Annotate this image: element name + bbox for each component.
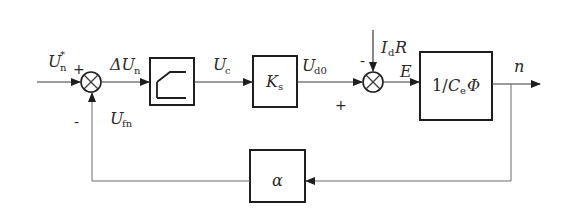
feedback-label: U fn <box>110 109 133 129</box>
sum1-plus-sign: + <box>73 61 85 77</box>
svg-text:s: s <box>278 81 283 92</box>
svg-text:d0: d0 <box>314 65 327 76</box>
svg-text:ΔU: ΔU <box>109 55 136 74</box>
svg-text:fn: fn <box>122 118 133 129</box>
block-diagram: U n * + ΔU n U c K s U d0 + I d <box>0 0 575 217</box>
summing-junction-2 <box>363 72 383 92</box>
feedback-path-left <box>92 93 250 181</box>
converter-block: K s <box>253 56 297 107</box>
saturation-block <box>150 58 194 105</box>
svg-text:c: c <box>225 65 231 76</box>
reference-label: U n * <box>48 49 67 73</box>
svg-text:d: d <box>388 47 395 58</box>
emf-label: E <box>399 62 412 81</box>
svg-text:Φ: Φ <box>467 76 480 95</box>
feedback-gain-block: α <box>250 150 305 202</box>
sum1-minus-sign: - <box>74 114 79 130</box>
svg-text:1/: 1/ <box>432 76 448 95</box>
sum2-plus-sign: + <box>335 97 347 113</box>
control-label: U c <box>213 55 231 76</box>
svg-text:α: α <box>272 171 283 190</box>
error-label: ΔU n <box>109 55 141 76</box>
disturbance-label: I d R <box>380 38 407 58</box>
converter-output-label: U d0 <box>302 56 327 76</box>
svg-text:C: C <box>448 76 460 95</box>
svg-text:n: n <box>134 65 141 76</box>
svg-text:e: e <box>460 85 466 96</box>
svg-text:n: n <box>60 62 67 73</box>
summing-junction-1 <box>81 72 101 92</box>
svg-text:R: R <box>394 38 407 57</box>
svg-text:K: K <box>265 72 279 91</box>
output-label: n <box>514 57 524 76</box>
sum2-minus-sign: - <box>360 53 365 69</box>
motor-block: 1/ C e Φ <box>420 52 492 120</box>
svg-text:*: * <box>60 49 65 60</box>
svg-text:I: I <box>380 38 388 57</box>
